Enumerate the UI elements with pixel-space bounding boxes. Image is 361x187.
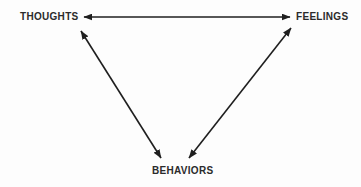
arrow-feelings-behaviors — [189, 28, 291, 158]
arrow-thoughts-behaviors — [81, 31, 161, 158]
diagram-arrows — [0, 0, 361, 187]
node-label-behaviors: BEHAVIORS — [152, 165, 213, 177]
node-label-thoughts: THOUGHTS — [20, 11, 79, 23]
cbt-triangle-diagram: THOUGHTS FEELINGS BEHAVIORS — [0, 0, 361, 187]
node-label-feelings: FEELINGS — [296, 11, 348, 23]
